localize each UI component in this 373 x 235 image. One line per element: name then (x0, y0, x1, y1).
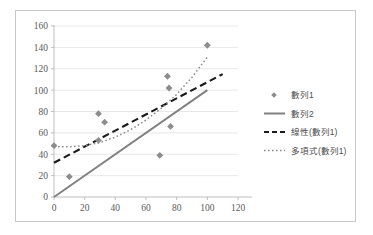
y-tick-label: 20 (39, 171, 49, 181)
series-line (54, 90, 207, 197)
data-point (66, 173, 73, 180)
data-point (95, 137, 102, 144)
data-point (101, 119, 108, 126)
x-tick-label: 120 (231, 203, 246, 213)
x-tick-label: 100 (200, 203, 215, 213)
y-tick-label: 100 (34, 86, 49, 96)
data-point (156, 152, 163, 159)
y-axis-tick-labels: 020406080100120140160 (34, 21, 49, 202)
chart-frame: 020406080100120140160 020406080100120 數列… (15, 10, 356, 222)
x-axis-tick-labels: 020406080100120 (52, 203, 246, 213)
legend-label[interactable]: 數列2 (291, 109, 314, 119)
gridlines (54, 26, 238, 176)
series-data-points (51, 42, 211, 180)
scatter-chart[interactable]: 020406080100120140160 020406080100120 數列… (16, 11, 357, 223)
legend-label[interactable]: 數列1 (291, 90, 314, 100)
axes (51, 25, 252, 200)
data-point (164, 73, 171, 80)
legend-marker-diamond (271, 92, 277, 98)
y-tick-label: 60 (39, 128, 49, 138)
legend-label[interactable]: 多項式(數列1) (291, 146, 347, 156)
legend-label[interactable]: 線性(數列1) (291, 127, 338, 137)
x-tick-label: 40 (111, 203, 121, 213)
chart-legend[interactable]: 數列1數列2線性(數列1)多項式(數列1) (264, 90, 347, 156)
x-tick-label: 0 (52, 203, 57, 213)
y-tick-label: 80 (39, 107, 49, 117)
y-tick-label: 140 (34, 43, 49, 53)
y-tick-label: 40 (39, 150, 49, 160)
data-point (51, 142, 58, 149)
data-point (167, 123, 174, 130)
series-line (54, 74, 223, 163)
x-tick-label: 80 (172, 203, 182, 213)
x-tick-label: 60 (141, 203, 151, 213)
y-tick-label: 160 (34, 21, 49, 31)
y-tick-label: 120 (34, 64, 49, 74)
y-tick-label: 0 (43, 192, 48, 202)
x-tick-label: 20 (80, 203, 90, 213)
